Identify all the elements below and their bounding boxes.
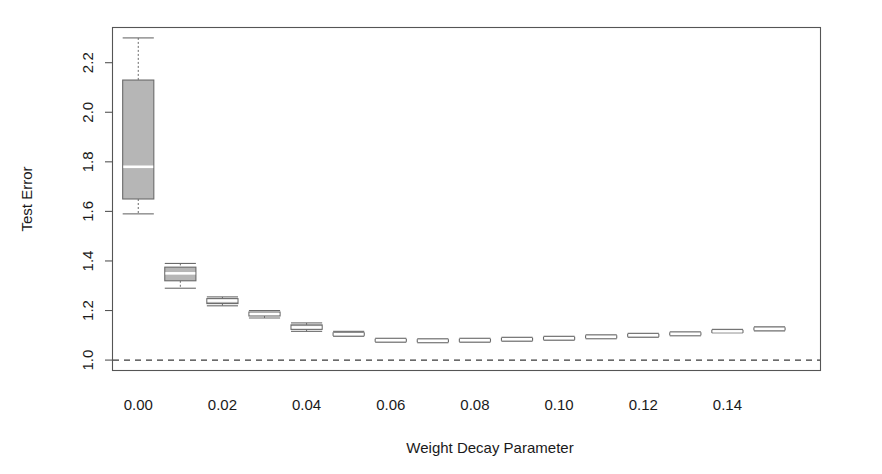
y-tick-label-1: 1.2 <box>80 300 97 321</box>
y-tick-label-6: 2.2 <box>80 52 97 73</box>
x-tick-label-1: 0.02 <box>208 396 237 413</box>
boxplot-8 <box>459 338 490 342</box>
boxplot-11 <box>586 335 617 339</box>
boxplot-14 <box>712 329 743 332</box>
box-body-0 <box>123 80 154 199</box>
boxplot-13 <box>670 332 701 336</box>
boxplot-figure: 1.01.21.41.61.82.02.2 0.000.020.040.060.… <box>0 0 882 474</box>
x-tick-label-6: 0.12 <box>629 396 658 413</box>
y-tick-label-3: 1.6 <box>80 201 97 222</box>
x-tick-label-3: 0.06 <box>376 396 405 413</box>
x-tick-label-5: 0.10 <box>544 396 573 413</box>
boxplot-7 <box>417 339 448 343</box>
y-tick-label-4: 1.8 <box>80 151 97 172</box>
x-tick-label-0: 0.00 <box>124 396 153 413</box>
boxplot-9 <box>501 337 532 341</box>
y-axis-title: Test Error <box>18 166 35 231</box>
boxplot-12 <box>628 333 659 337</box>
x-tick-label-7: 0.14 <box>713 396 742 413</box>
boxplot-6 <box>375 338 406 342</box>
x-tick-label-4: 0.08 <box>460 396 489 413</box>
y-tick-label-0: 1.0 <box>80 350 97 371</box>
x-tick-label-2: 0.04 <box>292 396 321 413</box>
y-tick-label-5: 2.0 <box>80 102 97 123</box>
y-tick-label-2: 1.4 <box>80 251 97 272</box>
x-axis-title: Weight Decay Parameter <box>406 439 573 456</box>
chart-canvas: 1.01.21.41.61.82.02.2 0.000.020.040.060.… <box>0 0 882 474</box>
boxplot-10 <box>544 336 575 340</box>
boxplot-15 <box>754 327 785 331</box>
